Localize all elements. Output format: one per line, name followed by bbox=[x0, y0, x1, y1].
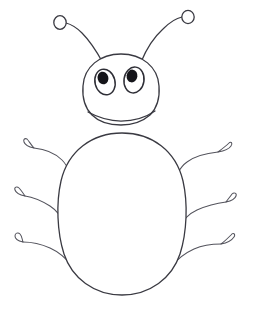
right-antenna-tip-circle bbox=[182, 10, 194, 23]
head-group bbox=[83, 54, 159, 125]
body-group bbox=[58, 133, 186, 295]
body-outline bbox=[58, 133, 186, 295]
head-outline bbox=[83, 54, 159, 125]
drawing-canvas: Cartoon Bug Line Drawing bug hand-drawn … bbox=[0, 0, 254, 310]
left-antenna-tip-circle bbox=[54, 16, 66, 30]
bug-illustration: Cartoon Bug Line Drawing bug hand-drawn … bbox=[0, 0, 254, 310]
